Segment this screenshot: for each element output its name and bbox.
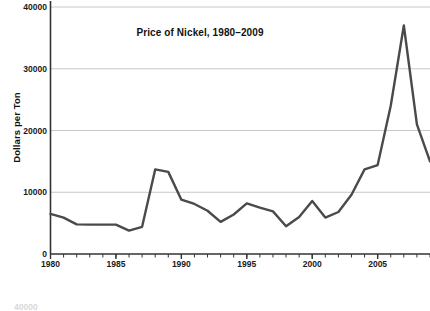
x-tick-label: 1980 bbox=[28, 259, 74, 269]
x-tick-label: 2005 bbox=[355, 259, 401, 269]
x-axis-tick-labels: 198019851990199520002005 bbox=[0, 0, 430, 311]
chart-figure: Dollars per Ton 40000 30000 20000 10000 … bbox=[0, 0, 430, 311]
next-figure-cutoff-label: 40000 bbox=[14, 302, 38, 311]
x-tick-label: 1990 bbox=[158, 259, 204, 269]
x-tick-label: 1985 bbox=[93, 259, 139, 269]
x-tick-label: 1995 bbox=[224, 259, 270, 269]
x-tick-label: 2000 bbox=[289, 259, 335, 269]
chart-title: Price of Nickel, 1980–2009 bbox=[60, 27, 340, 38]
